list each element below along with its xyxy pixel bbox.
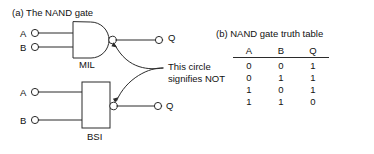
bsi-input-a-terminal xyxy=(31,88,38,95)
mil-gate-body xyxy=(73,22,109,58)
diagram-line-art xyxy=(0,0,374,154)
nand-gate-figure: (a) The NAND gate (b) NAND gate truth ta… xyxy=(0,0,374,154)
bsi-gate-body xyxy=(82,82,110,128)
leader-curve-to-bsi-bubble xyxy=(117,68,164,101)
mil-input-b-terminal xyxy=(31,43,38,50)
bsi-inversion-bubble xyxy=(110,102,118,110)
bsi-input-b-terminal xyxy=(31,116,38,123)
mil-inversion-bubble xyxy=(109,36,117,44)
bsi-output-terminal xyxy=(154,102,161,109)
mil-output-terminal xyxy=(155,36,162,43)
mil-input-a-terminal xyxy=(31,29,38,36)
leader-curve-to-mil-bubble xyxy=(115,45,163,69)
